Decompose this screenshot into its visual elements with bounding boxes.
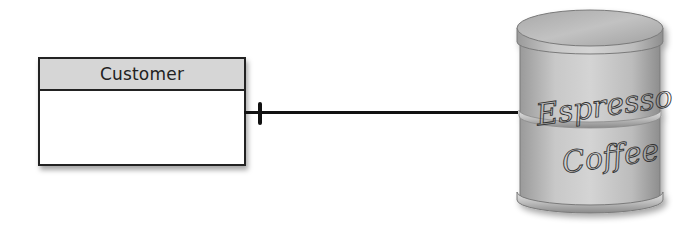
espresso-coffee-can-icon[interactable]: Espresso Coffee (508, 0, 673, 230)
entity-header: Customer (40, 59, 244, 91)
customer-entity[interactable]: Customer (38, 57, 246, 166)
one-cardinality-marker (258, 102, 262, 125)
relationship-line[interactable] (244, 111, 518, 114)
entity-title: Customer (100, 64, 184, 84)
entity-body (40, 91, 244, 164)
